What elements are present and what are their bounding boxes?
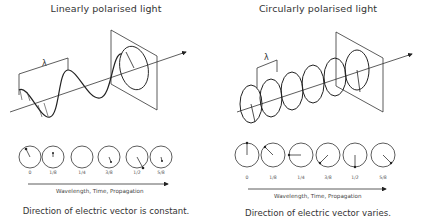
tick-label: 1/4	[76, 171, 88, 175]
axis-label: Wavelength, Time, Propagation	[56, 188, 144, 194]
lambda-label: λ	[264, 53, 269, 62]
tick-label: 0	[24, 171, 36, 175]
tick-label: 5/8	[155, 171, 167, 175]
tick-label: 1/8	[47, 171, 59, 175]
linear-caption: Direction of electric vector is constant…	[0, 206, 212, 216]
propagation-axis	[10, 52, 186, 112]
tick-label: 0	[241, 176, 253, 180]
circular-vector-circles	[235, 143, 395, 167]
linear-vector-circles	[19, 146, 172, 168]
tick-label: 1/2	[349, 176, 361, 180]
tick-label: 1/2	[131, 171, 143, 175]
circular-helix	[240, 50, 369, 123]
tick-label: 3/8	[322, 176, 334, 180]
polarizer-plane	[336, 32, 383, 112]
tick-label: 1/8	[267, 176, 279, 180]
circular-polarisation-panel: Circularly polarised light	[212, 0, 424, 219]
circular-wave-diagram: λ	[212, 0, 424, 219]
linear-wave-diagram: λ	[0, 0, 212, 219]
tick-label: 5/8	[377, 176, 389, 180]
lambda-label: λ	[42, 59, 47, 68]
axis-label: Wavelength, Time, Propagation	[274, 193, 362, 199]
tick-label: 1/4	[295, 176, 307, 180]
linear-wave	[19, 54, 122, 117]
circular-caption: Direction of electric vector varies.	[212, 208, 424, 218]
wavelength-bracket	[257, 60, 277, 88]
linear-polarisation-panel: Linearly polarised light	[0, 0, 212, 219]
tick-label: 3/8	[103, 171, 115, 175]
